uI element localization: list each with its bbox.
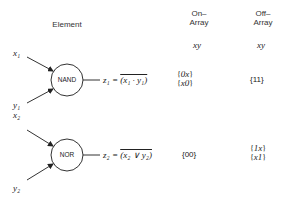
- nor-on-array: {00}: [182, 150, 196, 159]
- header-on-line1: On–: [184, 9, 214, 18]
- input-y2-label: y₂: [13, 183, 20, 193]
- off-vars: xy: [257, 40, 265, 50]
- nand-on-array: {0x} {x0}: [177, 70, 193, 88]
- nor-off-array: {1x} {x1}: [250, 144, 266, 162]
- nor-output-expr: z₂ = (x₂ ∨ y₂): [103, 150, 152, 160]
- nand-output-lhs: z₁ =: [103, 75, 120, 85]
- input-x1-label: x₁: [13, 48, 20, 58]
- header-on-line2: Array: [184, 18, 214, 27]
- nor-on-00: 00: [185, 150, 194, 159]
- nor-output-lhs: z₂ =: [103, 150, 120, 160]
- nor-output-rhs: (x₂ ∨ y₂): [120, 150, 152, 160]
- input-y1-label: y₁: [13, 100, 20, 110]
- header-off-line2: Array: [248, 18, 278, 27]
- header-element: Element: [42, 20, 92, 29]
- nand-on-x0: x0: [181, 78, 190, 88]
- on-vars: xy: [193, 40, 201, 50]
- header-off-array: Off– Array: [248, 9, 278, 27]
- header-on-array: On– Array: [184, 9, 214, 27]
- nand-output-rhs: (x₁ · y₁): [120, 75, 147, 85]
- nand-output-expr: z₁ = (x₁ · y₁): [103, 75, 147, 85]
- nand-gate-label: NAND: [55, 76, 79, 83]
- nor-off-x1: x1: [254, 152, 263, 162]
- input-x2-label: x₂: [13, 110, 20, 120]
- nor-gate-label: NOR: [55, 151, 79, 158]
- nand-off-array: {11}: [250, 75, 264, 84]
- header-off-line1: Off–: [248, 9, 278, 18]
- nand-off-11: 11: [253, 75, 261, 84]
- diagram-lines: [0, 0, 283, 201]
